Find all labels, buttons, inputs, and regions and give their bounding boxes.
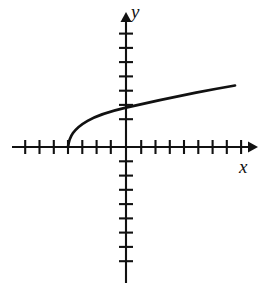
y-axis-label: y bbox=[131, 2, 139, 21]
x-axis-arrowhead bbox=[248, 142, 258, 153]
sqrt-curve-path bbox=[68, 86, 235, 148]
coordinate-plane-svg bbox=[0, 0, 261, 288]
y-axis-arrowhead bbox=[121, 12, 132, 22]
graph-figure: y x bbox=[0, 0, 261, 288]
x-axis-label: x bbox=[239, 157, 247, 176]
x-axis-group bbox=[12, 140, 258, 154]
